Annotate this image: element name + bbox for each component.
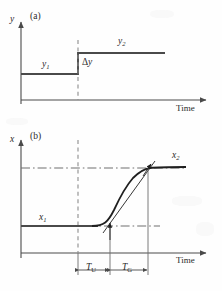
- delay-time-label: TU: [86, 263, 96, 273]
- figure-container: y (a) y1 y2 Δy Time x (b) x1 x2 TU TG Ti…: [0, 0, 222, 291]
- process-response-curve: [92, 167, 186, 226]
- panel-b-final-level-label: x2: [172, 151, 180, 161]
- panel-b-tag: (b): [30, 132, 41, 142]
- dimension-tick-lines: [78, 168, 148, 275]
- panel-a-x-axis-label: Time: [176, 104, 195, 113]
- panel-a-final-level-label: y2: [118, 37, 126, 47]
- panel-a-initial-level-label: y1: [42, 60, 50, 70]
- panel-a-tag: (a): [30, 12, 41, 22]
- panel-a-step-magnitude-label: Δy: [82, 58, 92, 68]
- rise-time-label: TG: [122, 263, 132, 273]
- panel-a-y-axis-label: y: [10, 15, 14, 25]
- figure-vector: [0, 0, 222, 291]
- inflection-tangent-line: [103, 161, 155, 233]
- panel-b-y-axis-label: x: [10, 135, 14, 145]
- panel-b-x-axis-label: Time: [176, 256, 195, 265]
- panel-b-initial-level-label: x1: [39, 213, 47, 223]
